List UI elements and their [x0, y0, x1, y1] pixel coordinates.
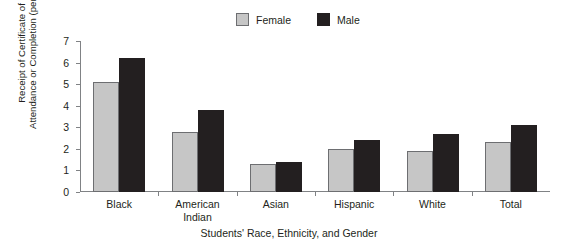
- bar-chart-figure: Female Male Receipt of Certificate of At…: [0, 0, 578, 250]
- y-tick-label-0: 0: [63, 187, 69, 198]
- x-tick-1: [158, 192, 159, 196]
- y-tick-0: 0: [76, 192, 80, 193]
- y-tick-6: 6: [76, 63, 80, 64]
- y-tick-4: 4: [76, 106, 80, 107]
- x-tick-3: [315, 192, 316, 196]
- bar-female-white: [407, 151, 433, 192]
- x-category-label-hispanic: Hispanic: [334, 198, 374, 211]
- y-axis-line: [80, 41, 81, 192]
- bar-female-hispanic: [328, 149, 354, 192]
- chart-legend: Female Male: [236, 13, 360, 26]
- legend-entry-female: Female: [236, 13, 291, 26]
- bar-male-total: [511, 125, 537, 192]
- legend-swatch-male: [317, 13, 330, 26]
- y-tick-label-2: 2: [63, 143, 69, 154]
- bar-female-black: [93, 82, 119, 192]
- y-tick-3: 3: [76, 127, 80, 128]
- x-category-label-american-indian: American Indian: [175, 198, 219, 223]
- y-tick-label-6: 6: [63, 57, 69, 68]
- x-category-label-white: White: [419, 198, 446, 211]
- y-axis-title-line1: Receipt of Certificate of: [16, 3, 28, 103]
- bar-male-black: [119, 58, 145, 192]
- y-tick-label-5: 5: [63, 79, 69, 90]
- x-category-label-black: Black: [106, 198, 132, 211]
- y-tick-2: 2: [76, 149, 80, 150]
- plot-area: 01234567 BlackAmerican IndianAsianHispan…: [80, 41, 550, 192]
- y-tick-7: 7: [76, 41, 80, 42]
- y-tick-label-1: 1: [63, 165, 69, 176]
- bar-male-asian: [276, 162, 302, 192]
- y-tick-label-7: 7: [63, 36, 69, 47]
- bar-female-total: [485, 142, 511, 192]
- y-tick-label-4: 4: [63, 100, 69, 111]
- y-axis-title-line2: Attendance or Completion (percent): [27, 0, 39, 129]
- x-tick-4: [393, 192, 394, 196]
- y-tick-1: 1: [76, 170, 80, 171]
- y-tick-5: 5: [76, 84, 80, 85]
- x-tick-2: [237, 192, 238, 196]
- bar-male-hispanic: [354, 140, 380, 192]
- legend-entry-male: Male: [317, 13, 360, 26]
- x-category-label-asian: Asian: [263, 198, 289, 211]
- bar-female-american-indian: [172, 132, 198, 192]
- y-tick-label-3: 3: [63, 122, 69, 133]
- y-axis-title: Receipt of Certificate of Attendance or …: [12, 0, 42, 129]
- bar-male-white: [433, 134, 459, 192]
- legend-label-female: Female: [256, 14, 291, 26]
- legend-swatch-female: [236, 13, 249, 26]
- bar-male-american-indian: [198, 110, 224, 192]
- legend-label-male: Male: [337, 14, 360, 26]
- x-category-label-total: Total: [500, 198, 522, 211]
- x-tick-5: [472, 192, 473, 196]
- bar-female-asian: [250, 164, 276, 192]
- x-axis-title: Students' Race, Ethnicity, and Gender: [0, 227, 578, 239]
